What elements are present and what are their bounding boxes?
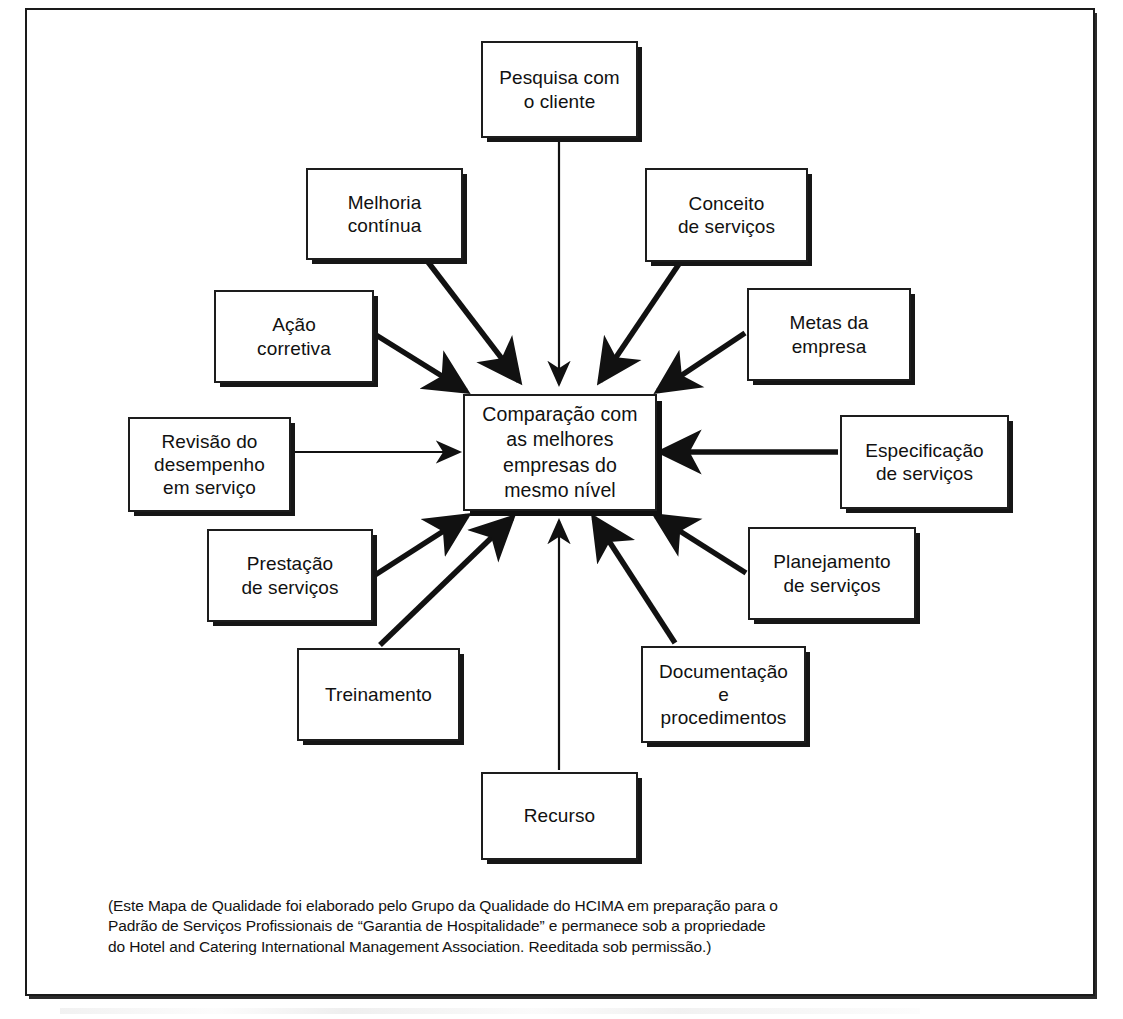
- diagram-page: Comparação com as melhores empresas do m…: [0, 0, 1123, 1019]
- node-label-melhoria-continua: Melhoria contínua: [348, 191, 422, 237]
- node-label-conceito-de-servicos: Conceito de serviços: [678, 192, 775, 238]
- node-label-prestacao-de-servicos: Prestação de serviços: [241, 552, 338, 598]
- node-label-documentacao-e-procedimentos: Documentação e procedimentos: [659, 660, 788, 730]
- node-label-acao-corretiva: Ação corretiva: [257, 313, 331, 359]
- node-label-pesquisa-com-o-cliente: Pesquisa com o cliente: [499, 66, 620, 112]
- node-metas-da-empresa[interactable]: Metas da empresa: [747, 288, 911, 381]
- scan-artifact: [60, 1008, 920, 1014]
- node-prestacao-de-servicos[interactable]: Prestação de serviços: [207, 529, 373, 622]
- node-conceito-de-servicos[interactable]: Conceito de serviços: [645, 168, 808, 262]
- node-label-recurso: Recurso: [524, 804, 595, 827]
- node-label-especificacao-de-servicos: Especificação de serviços: [865, 439, 984, 485]
- node-comparacao[interactable]: Comparação com as melhores empresas do m…: [463, 394, 657, 511]
- node-recurso[interactable]: Recurso: [481, 772, 638, 860]
- diagram-caption: (Este Mapa de Qualidade foi elaborado pe…: [108, 896, 988, 957]
- caption-line: (Este Mapa de Qualidade foi elaborado pe…: [108, 896, 988, 916]
- caption-line: Padrão de Serviços Profissionais de “Gar…: [108, 916, 988, 936]
- node-pesquisa-com-o-cliente[interactable]: Pesquisa com o cliente: [481, 41, 638, 138]
- node-label-comparacao: Comparação com as melhores empresas do m…: [482, 402, 637, 503]
- node-acao-corretiva[interactable]: Ação corretiva: [214, 290, 374, 383]
- node-planejamento-de-servicos[interactable]: Planejamento de serviços: [748, 527, 916, 620]
- node-label-revisao-do-desempenho: Revisão do desempenho em serviço: [154, 430, 265, 500]
- node-label-treinamento: Treinamento: [325, 683, 432, 706]
- node-label-metas-da-empresa: Metas da empresa: [790, 311, 869, 357]
- node-label-planejamento-de-servicos: Planejamento de serviços: [773, 550, 890, 596]
- node-treinamento[interactable]: Treinamento: [297, 648, 460, 741]
- caption-line: do Hotel and Catering International Mana…: [108, 937, 988, 957]
- node-melhoria-continua[interactable]: Melhoria contínua: [306, 168, 463, 260]
- node-revisao-do-desempenho[interactable]: Revisão do desempenho em serviço: [128, 417, 291, 512]
- node-documentacao-e-procedimentos[interactable]: Documentação e procedimentos: [641, 646, 806, 743]
- node-especificacao-de-servicos[interactable]: Especificação de serviços: [840, 415, 1009, 509]
